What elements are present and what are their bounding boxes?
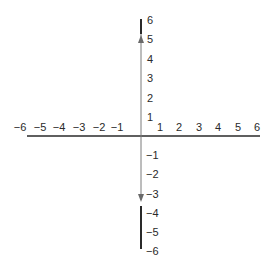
- y-tick-label-neg3: −3: [146, 189, 159, 200]
- x-tick-label-3: 3: [196, 122, 202, 133]
- x-tick-label-1: 1: [157, 122, 163, 133]
- x-tick-label-neg5: −5: [34, 122, 47, 133]
- x-tick-label-neg2: −2: [93, 122, 106, 133]
- y-tick-label-neg2: −2: [146, 169, 159, 180]
- y-tick-label-1: 1: [147, 112, 153, 123]
- y-tick-label-3: 3: [147, 73, 153, 84]
- y-tick-label-2: 2: [147, 93, 153, 104]
- y-tick-label-4: 4: [147, 54, 153, 65]
- coordinate-axes-diagram: −6 −5 −4 −3 −2 −1 1 2 3 4 5 6 6 5 4 3 2 …: [0, 0, 278, 262]
- y-tick-label-6: 6: [147, 15, 153, 26]
- y-tick-label-neg1: −1: [146, 150, 159, 161]
- x-tick-label-4: 4: [215, 122, 221, 133]
- y-tick-label-neg5: −5: [146, 227, 159, 238]
- y-tick-label-neg6: −6: [146, 246, 159, 257]
- y-tick-label-5: 5: [147, 34, 153, 45]
- x-tick-label-neg3: −3: [73, 122, 86, 133]
- up-arrow-icon: [138, 35, 144, 43]
- down-arrow-icon: [138, 194, 144, 202]
- x-tick-label-5: 5: [235, 122, 241, 133]
- y-tick-label-neg4: −4: [146, 208, 159, 219]
- x-tick-label-neg1: −1: [111, 122, 124, 133]
- x-tick-label-neg6: −6: [14, 122, 27, 133]
- x-tick-label-neg4: −4: [53, 122, 66, 133]
- x-tick-label-6: 6: [254, 122, 260, 133]
- x-tick-label-2: 2: [176, 122, 182, 133]
